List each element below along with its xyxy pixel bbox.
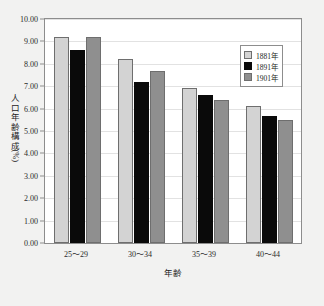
- legend-swatch: [244, 62, 252, 70]
- chart-figure: 人口年齢構成(%) 0.001.002.003.004.005.006.007.…: [0, 0, 324, 306]
- bar: [54, 37, 69, 243]
- chart-legend: 1881年1891年1901年: [240, 45, 283, 87]
- y-axis-tick-label: 4.00: [24, 149, 38, 158]
- x-axis-title: 年齢: [44, 266, 302, 278]
- legend-label: 1901年: [256, 72, 278, 83]
- bar: [262, 116, 277, 243]
- bar-group: [182, 19, 229, 243]
- y-axis-tick-label: 10.00: [20, 15, 38, 24]
- bar: [150, 71, 165, 243]
- bar: [86, 37, 101, 243]
- y-axis-tick-label: 0.00: [24, 239, 38, 248]
- bar: [278, 120, 293, 243]
- legend-label: 1891年: [256, 61, 278, 72]
- bar: [118, 59, 133, 243]
- y-axis-tick-label: 7.00: [24, 82, 38, 91]
- y-axis-tick-label: 1.00: [24, 216, 38, 225]
- y-axis-tick-label: 5.00: [24, 127, 38, 136]
- legend-swatch: [244, 73, 252, 81]
- y-axis-tick-label: 3.00: [24, 171, 38, 180]
- legend-item: 1881年: [244, 50, 278, 60]
- y-axis-tick-label: 9.00: [24, 37, 38, 46]
- x-axis-tick-labels: 25～2930～3435～3940～44: [44, 248, 302, 262]
- bar: [70, 50, 85, 243]
- x-axis-tick-label: 25～29: [64, 248, 88, 259]
- legend-swatch: [244, 51, 252, 59]
- y-axis-tick-label: 6.00: [24, 104, 38, 113]
- x-axis-tick-label: 30～34: [128, 248, 152, 259]
- y-axis-tick-labels: 0.001.002.003.004.005.006.007.008.009.00…: [0, 18, 44, 244]
- bar: [246, 106, 261, 243]
- bar: [134, 82, 149, 243]
- bar: [198, 95, 213, 243]
- bar: [182, 88, 197, 243]
- legend-label: 1881年: [256, 50, 278, 61]
- bar-group: [54, 19, 101, 243]
- x-axis-tick-label: 35～39: [192, 248, 216, 259]
- y-axis-tick-label: 8.00: [24, 59, 38, 68]
- bar: [214, 100, 229, 243]
- bar-group: [118, 19, 165, 243]
- legend-item: 1891年: [244, 61, 278, 71]
- x-axis-tick-label: 40～44: [256, 248, 280, 259]
- y-axis-tick-label: 2.00: [24, 194, 38, 203]
- legend-item: 1901年: [244, 72, 278, 82]
